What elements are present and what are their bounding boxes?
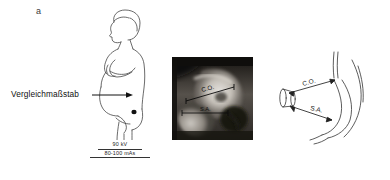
panel-a: a (0, 0, 170, 180)
right-arrow-icon (92, 91, 134, 99)
sa-label-radiograph: S.A. (200, 106, 211, 112)
sa-label-schematic: S.A. (310, 104, 324, 113)
patient-outline-drawing (78, 8, 166, 140)
reference-scale-marker-dot (131, 110, 136, 114)
panel-c-schematic: C.O. S.A. (272, 34, 390, 154)
mas-value: 80-100 mAs (90, 150, 150, 158)
vergleichmassstab-label: Vergleichmaßstab (11, 89, 79, 99)
panel-a-label: a (36, 6, 41, 16)
exposure-parameters: 90 kV 80-100 mAs (84, 142, 156, 158)
pelvimetry-radiograph: C.O. S.A. (172, 57, 253, 140)
co-label-schematic: C.O. (301, 77, 316, 87)
figure-container: a (0, 0, 390, 180)
sacrum-schematic-drawing: C.O. S.A. (272, 34, 390, 154)
kv-value: 90 kV (98, 142, 142, 150)
